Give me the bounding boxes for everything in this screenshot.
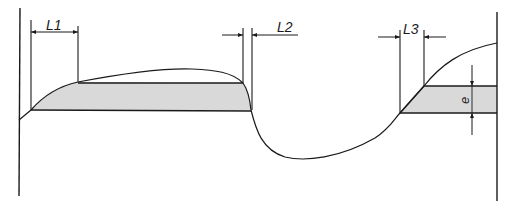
shaded-region-right bbox=[400, 86, 497, 113]
weld-profile-diagram: L1 L2 L3 e bbox=[0, 0, 515, 211]
left-boundary-line bbox=[19, 8, 20, 196]
label-l1: L1 bbox=[46, 17, 62, 33]
label-e: e bbox=[457, 97, 472, 104]
label-l2: L2 bbox=[277, 19, 293, 35]
dimension-e: e bbox=[457, 65, 472, 135]
left-band-bottom-line bbox=[31, 110, 251, 111]
label-l3: L3 bbox=[403, 21, 419, 37]
